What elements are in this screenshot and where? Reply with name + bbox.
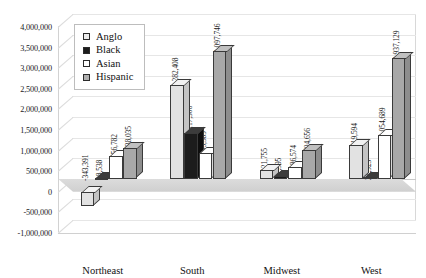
depth-gridline — [58, 55, 74, 69]
legend-item-hispanic[interactable]: Hispanic — [83, 71, 133, 85]
bar-column — [170, 85, 184, 179]
bar-side-face — [225, 45, 232, 179]
y-axis-tick: 2,500,000 — [20, 84, 52, 93]
bar-front-face — [349, 145, 363, 179]
bar-column — [184, 133, 198, 179]
bar-front-face — [288, 167, 302, 179]
y-axis-tick: 500,000 — [26, 167, 52, 176]
depth-gridline — [58, 76, 74, 90]
depth-gridline — [58, 138, 74, 152]
bar-column — [213, 51, 227, 179]
y-axis-tick: 1,500,000 — [20, 126, 52, 135]
y-axis-tick: 1,000,000 — [20, 146, 52, 155]
depth-gridline — [58, 200, 74, 214]
chart-legend: AngloBlackAsianHispanic — [74, 24, 145, 90]
bar-column — [363, 178, 377, 180]
bar-front-face — [199, 153, 213, 179]
legend-swatch-icon — [83, 47, 90, 54]
y-axis-tick: 2,000,000 — [20, 105, 52, 114]
bar-column — [123, 148, 137, 178]
gridline — [72, 96, 416, 97]
bar-value-label: -343,391 — [81, 154, 90, 180]
bar-column — [378, 135, 392, 178]
legend-swatch-icon — [83, 33, 90, 40]
bar-column — [81, 192, 95, 206]
bar-column — [95, 178, 109, 180]
bar-front-face — [302, 150, 316, 179]
y-axis-tick-labels: 4,000,0003,500,0003,000,0002,500,0002,00… — [0, 0, 56, 278]
gridline — [72, 117, 416, 118]
bar-front-face — [123, 148, 137, 178]
legend-label: Asian — [96, 59, 121, 70]
legend-item-asian[interactable]: Asian — [83, 57, 133, 71]
bar-column — [274, 176, 288, 179]
legend-swatch-icon — [83, 60, 90, 67]
legend-item-anglo[interactable]: Anglo — [83, 30, 133, 44]
y-axis-tick: 3,500,000 — [20, 43, 52, 52]
gridline — [72, 199, 416, 200]
bar-column — [260, 170, 274, 179]
zero-floor-plane — [58, 179, 416, 192]
bar-front-face — [213, 51, 227, 179]
bar-column — [199, 153, 213, 179]
bar-front-face — [392, 58, 406, 179]
depth-gridline — [58, 117, 74, 131]
bar-front-face — [260, 170, 274, 179]
legend-swatch-icon — [83, 74, 90, 81]
bar-column — [288, 167, 302, 179]
bar-front-face — [81, 192, 95, 206]
y-axis-tick: 3,000,000 — [20, 64, 52, 73]
depth-gridline — [58, 35, 74, 49]
x-axis-category-label: South — [148, 265, 238, 276]
gridline — [72, 220, 416, 221]
bar-column — [349, 145, 363, 179]
y-axis-tick: -500,000 — [23, 208, 52, 217]
x-axis-category-label: West — [327, 265, 417, 276]
x-axis-category-label: Midwest — [237, 265, 327, 276]
bar-front-face — [378, 135, 392, 178]
bar-column — [392, 58, 406, 179]
depth-gridline — [58, 220, 74, 234]
bar-column — [109, 156, 123, 179]
bar-front-face — [274, 176, 288, 179]
chart-baseline — [58, 233, 416, 234]
depth-gridline — [58, 97, 74, 111]
y-axis-tick: 0 — [48, 187, 52, 196]
bar-front-face — [95, 178, 109, 180]
bar-front-face — [109, 156, 123, 179]
bar-side-face — [404, 51, 411, 178]
bar-column — [302, 150, 316, 179]
depth-gridline — [58, 158, 74, 172]
legend-item-black[interactable]: Black — [83, 44, 133, 58]
bar-front-face — [363, 177, 377, 179]
bar-front-face — [184, 133, 198, 179]
bar-front-face — [170, 85, 184, 179]
y-axis-tick: -1,000,000 — [18, 229, 52, 238]
y-axis-tick: 4,000,000 — [20, 23, 52, 32]
gridline — [72, 14, 416, 15]
legend-label: Hispanic — [96, 72, 133, 83]
bar-chart: 4,000,0003,500,0003,000,0002,500,0002,00… — [0, 0, 426, 278]
legend-label: Black — [96, 45, 121, 56]
legend-label: Anglo — [96, 32, 122, 43]
x-axis-category-label: Northeast — [58, 265, 148, 276]
depth-gridline — [58, 14, 74, 28]
